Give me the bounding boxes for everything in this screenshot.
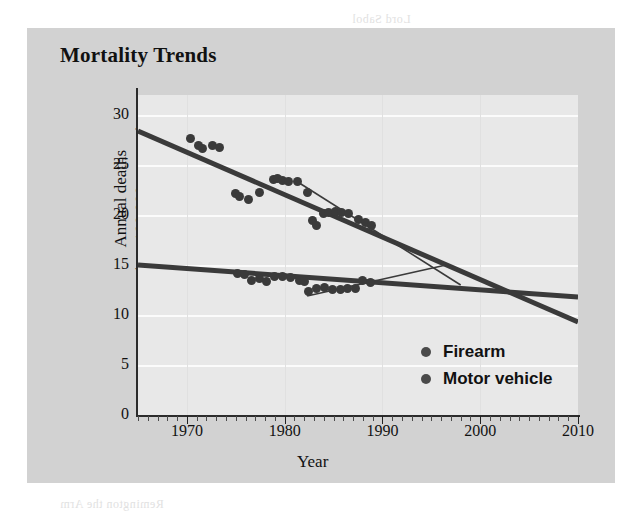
- plot-area: FirearmMotor vehicle: [138, 95, 578, 415]
- x-minor-tick: [206, 416, 207, 421]
- legend-label: Firearm: [443, 342, 505, 362]
- data-point: [262, 277, 271, 286]
- x-minor-tick: [294, 416, 295, 421]
- x-minor-tick: [529, 416, 530, 421]
- data-point: [255, 188, 264, 197]
- data-point: [198, 144, 207, 153]
- x-minor-tick: [373, 416, 374, 421]
- x-minor-tick: [461, 416, 462, 421]
- legend-marker-icon: [421, 347, 431, 357]
- x-minor-tick: [216, 416, 217, 421]
- x-tick-label: 1970: [157, 422, 217, 440]
- y-tick-label: 0: [89, 405, 129, 423]
- x-minor-tick: [138, 416, 139, 421]
- chart-legend: FirearmMotor vehicle: [421, 338, 553, 392]
- data-point: [215, 143, 224, 152]
- data-point: [300, 277, 309, 286]
- data-point: [367, 221, 376, 230]
- x-minor-tick: [343, 416, 344, 421]
- legend-label: Motor vehicle: [443, 369, 553, 389]
- x-tick-label: 1990: [352, 422, 412, 440]
- x-minor-tick: [167, 416, 168, 421]
- figure-panel: Mortality Trends Annual deaths (per 100,…: [27, 28, 615, 483]
- x-minor-tick: [490, 416, 491, 421]
- legend-item: Firearm: [421, 338, 553, 365]
- x-minor-tick: [431, 416, 432, 421]
- x-minor-tick: [412, 416, 413, 421]
- x-minor-tick: [148, 416, 149, 421]
- x-minor-tick: [246, 416, 247, 421]
- x-minor-tick: [304, 416, 305, 421]
- data-point: [284, 177, 293, 186]
- x-axis-line: [136, 415, 580, 417]
- x-minor-tick: [158, 416, 159, 421]
- legend-marker-icon: [421, 374, 431, 384]
- x-minor-tick: [392, 416, 393, 421]
- x-minor-tick: [500, 416, 501, 421]
- x-minor-tick: [470, 416, 471, 421]
- x-minor-tick: [402, 416, 403, 421]
- x-minor-tick: [275, 416, 276, 421]
- data-point: [344, 209, 353, 218]
- x-axis-title: Year: [297, 452, 328, 472]
- y-tick-label: 30: [89, 105, 129, 123]
- x-minor-tick: [255, 416, 256, 421]
- x-minor-tick: [177, 416, 178, 421]
- x-tick-label: 2000: [450, 422, 510, 440]
- x-minor-tick: [226, 416, 227, 421]
- x-minor-tick: [265, 416, 266, 421]
- y-tick-label: 5: [89, 355, 129, 373]
- x-minor-tick: [422, 416, 423, 421]
- bleed-text-1: Lord Sabol: [352, 12, 411, 27]
- data-point: [303, 188, 312, 197]
- data-point: [235, 192, 244, 201]
- y-tick-label: 20: [89, 205, 129, 223]
- x-minor-tick: [568, 416, 569, 421]
- x-minor-tick: [451, 416, 452, 421]
- data-point: [293, 177, 302, 186]
- x-minor-tick: [236, 416, 237, 421]
- chart-title: Mortality Trends: [60, 43, 217, 68]
- data-point: [186, 134, 195, 143]
- legend-item: Motor vehicle: [421, 365, 553, 392]
- x-minor-tick: [441, 416, 442, 421]
- y-tick-label: 15: [89, 255, 129, 273]
- data-point: [244, 195, 253, 204]
- data-point: [366, 278, 375, 287]
- x-minor-tick: [197, 416, 198, 421]
- x-minor-tick: [363, 416, 364, 421]
- x-minor-tick: [519, 416, 520, 421]
- x-minor-tick: [324, 416, 325, 421]
- x-minor-tick: [539, 416, 540, 421]
- data-point: [312, 221, 321, 230]
- x-minor-tick: [334, 416, 335, 421]
- x-minor-tick: [353, 416, 354, 421]
- x-minor-tick: [314, 416, 315, 421]
- y-tick-label: 10: [89, 305, 129, 323]
- firearm-projection-line: [299, 183, 460, 285]
- x-tick-label: 1980: [255, 422, 315, 440]
- data-point: [304, 287, 313, 296]
- x-minor-tick: [510, 416, 511, 421]
- y-tick-label: 25: [89, 155, 129, 173]
- data-point: [351, 284, 360, 293]
- bleed-text-7: Remington the Arm: [60, 497, 164, 512]
- x-minor-tick: [558, 416, 559, 421]
- x-tick-label: 2010: [548, 422, 608, 440]
- x-minor-tick: [549, 416, 550, 421]
- data-point: [286, 273, 295, 282]
